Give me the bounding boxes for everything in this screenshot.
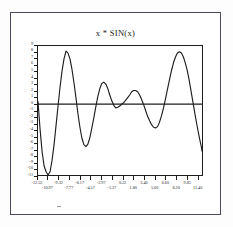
x-tick-label: -6.17 bbox=[75, 181, 84, 185]
y-tick: 0 bbox=[27, 104, 37, 105]
y-tick: 6 bbox=[27, 65, 37, 66]
x-tick-label: 9.85 bbox=[184, 181, 191, 185]
y-tick: -4 bbox=[27, 130, 37, 131]
y-tick: 2 bbox=[27, 91, 37, 92]
y-tick-label: -8 bbox=[30, 153, 34, 157]
y-tick-label: 2 bbox=[31, 88, 33, 92]
y-tick: 3 bbox=[27, 84, 37, 85]
plot-svg bbox=[38, 46, 202, 175]
y-tick-label: 1 bbox=[31, 94, 33, 98]
y-tick-label: -3 bbox=[30, 120, 34, 124]
y-tick: 1 bbox=[27, 97, 37, 98]
x-tick-mark bbox=[90, 176, 91, 180]
x-tick-label: 1.80 bbox=[129, 186, 136, 190]
x-tick-label: 6.60 bbox=[162, 181, 169, 185]
y-tick: -8 bbox=[27, 156, 37, 157]
x-tick-label: 5.00 bbox=[151, 186, 158, 190]
y-axis: 9876543210-1-2-3-4-5-6-7-8-9-10-11 bbox=[27, 45, 37, 176]
y-tick: 5 bbox=[27, 71, 37, 72]
y-tick-label: -4 bbox=[30, 127, 34, 131]
series-line-x-sin-x bbox=[38, 51, 202, 175]
y-tick: -3 bbox=[27, 124, 37, 125]
y-tick-label: 0 bbox=[31, 101, 33, 105]
y-tick-label: -6 bbox=[30, 140, 34, 144]
x-tick-mark bbox=[47, 176, 48, 180]
x-tick-label: -1.37 bbox=[107, 186, 116, 190]
x-tick-mark bbox=[112, 176, 113, 180]
y-tick-label: 4 bbox=[31, 75, 33, 79]
y-tick: -1 bbox=[27, 111, 37, 112]
x-tick-mark bbox=[176, 176, 177, 180]
x-tick-label: 3.40 bbox=[140, 181, 147, 185]
stray-mark bbox=[57, 206, 61, 207]
x-tick-label: -7.77 bbox=[65, 186, 74, 190]
y-tick-label: -9 bbox=[30, 160, 34, 164]
x-tick-label: 11.40 bbox=[193, 186, 202, 190]
x-tick-label: 0.22 bbox=[119, 181, 126, 185]
y-tick-label: 8 bbox=[31, 48, 33, 52]
y-tick: -5 bbox=[27, 137, 37, 138]
y-tick: -10 bbox=[27, 169, 37, 170]
y-tick-label: 7 bbox=[31, 55, 33, 59]
x-tick-mark bbox=[69, 176, 70, 180]
y-tick: 4 bbox=[27, 78, 37, 79]
y-tick-label: -10 bbox=[27, 166, 33, 170]
y-tick: -6 bbox=[27, 143, 37, 144]
y-tick: 8 bbox=[27, 52, 37, 53]
y-tick-label: -1 bbox=[30, 107, 34, 111]
y-tick: 9 bbox=[27, 45, 37, 46]
y-tick: -11 bbox=[27, 176, 37, 177]
y-tick-label: 5 bbox=[31, 68, 33, 72]
x-tick-label: -10.97 bbox=[42, 186, 53, 190]
y-tick: -7 bbox=[27, 150, 37, 151]
y-tick-label: 6 bbox=[31, 61, 33, 65]
y-tick-label: -11 bbox=[28, 173, 33, 177]
y-tick: 7 bbox=[27, 58, 37, 59]
y-tick-label: -7 bbox=[30, 147, 34, 151]
x-tick-mark bbox=[133, 176, 134, 180]
x-tick-label: 8.20 bbox=[172, 186, 179, 190]
x-tick-mark bbox=[155, 176, 156, 180]
y-tick-label: -5 bbox=[30, 134, 34, 138]
chart-title: x * SIN(x) bbox=[10, 28, 221, 38]
x-tick-label: -9.32 bbox=[54, 181, 63, 185]
y-tick: -9 bbox=[27, 163, 37, 164]
figure-root: x * SIN(x) 9876543210-1-2-3-4-5-6-7-8-9-… bbox=[0, 0, 233, 227]
plot-area bbox=[37, 45, 203, 176]
y-tick: -2 bbox=[27, 117, 37, 118]
x-tick-label: -4.57 bbox=[86, 186, 95, 190]
x-tick-label: -2.97 bbox=[97, 181, 106, 185]
x-axis: -12.52-10.97-9.32-7.77-6.17-4.57-2.97-1.… bbox=[37, 176, 203, 202]
x-tick-label: -12.52 bbox=[32, 181, 43, 185]
y-tick-label: 9 bbox=[31, 42, 33, 46]
y-tick-label: -2 bbox=[30, 114, 34, 118]
x-tick-mark bbox=[198, 176, 199, 180]
y-tick-label: 3 bbox=[31, 81, 33, 85]
